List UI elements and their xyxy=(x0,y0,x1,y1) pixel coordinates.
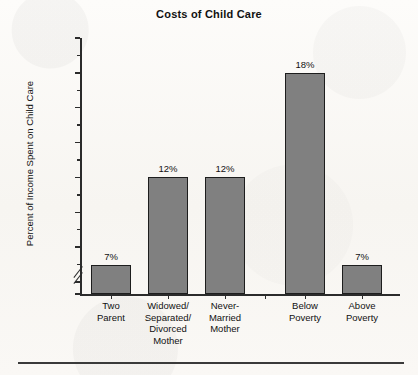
chart-title: Costs of Child Care xyxy=(0,8,418,20)
y-tick-minor xyxy=(77,90,81,91)
category-label-line: Parent xyxy=(97,312,125,323)
category-label-line: Married xyxy=(209,312,241,323)
x-tick xyxy=(225,294,226,299)
y-tick xyxy=(75,142,80,143)
y-tick-minor xyxy=(77,159,81,160)
bar-value-label: 7% xyxy=(330,251,394,262)
y-tick-minor xyxy=(77,264,81,265)
x-tick xyxy=(111,294,112,299)
bar xyxy=(148,177,188,294)
y-tick xyxy=(75,281,80,282)
category-label-line: Poverty xyxy=(289,312,321,323)
bottom-divider xyxy=(18,362,404,364)
bar-value-label: 18% xyxy=(273,59,337,70)
y-tick xyxy=(75,246,80,247)
y-tick-minor xyxy=(77,194,81,195)
bar xyxy=(91,265,131,294)
y-tick xyxy=(75,107,80,108)
category-label-line: Mother xyxy=(210,323,240,334)
y-tick-minor xyxy=(77,55,81,56)
category-label-line: Widowed/ xyxy=(147,300,189,311)
y-tick xyxy=(75,37,80,38)
bar xyxy=(342,265,382,294)
x-axis-line xyxy=(80,294,400,296)
bar xyxy=(205,177,245,294)
category-label-line: Poverty xyxy=(346,312,378,323)
bar xyxy=(285,73,325,294)
x-tick xyxy=(305,294,306,299)
y-axis-title: Percent of Income Spent on Child Care xyxy=(24,39,35,289)
x-tick xyxy=(168,294,169,299)
x-tick xyxy=(362,294,363,299)
plot-area: 0%6%8%10%12%14%16%18%20% 7%12%12%18%7% T… xyxy=(80,34,400,294)
category-label-line: Divorced xyxy=(149,323,187,334)
y-tick xyxy=(75,293,80,294)
y-tick xyxy=(75,72,80,73)
category-label-line: Above xyxy=(349,300,376,311)
chart-figure: Costs of Child Care Percent of Income Sp… xyxy=(0,0,418,375)
y-tick xyxy=(75,212,80,213)
category-label-line: Below xyxy=(292,300,318,311)
y-tick xyxy=(75,177,80,178)
bar-value-label: 12% xyxy=(136,163,200,174)
category-label: AbovePoverty xyxy=(328,300,396,323)
bar-value-label: 7% xyxy=(79,251,143,262)
category-label-line: Two xyxy=(102,300,119,311)
y-tick-minor xyxy=(77,229,81,230)
bar-value-label: 12% xyxy=(193,163,257,174)
category-label-line: Mother xyxy=(153,335,183,346)
category-label: Never-MarriedMother xyxy=(191,300,259,335)
y-tick-minor xyxy=(77,124,81,125)
x-tick-gap xyxy=(265,294,266,299)
category-label-line: Separated/ xyxy=(145,312,191,323)
category-label-line: Never- xyxy=(211,300,240,311)
